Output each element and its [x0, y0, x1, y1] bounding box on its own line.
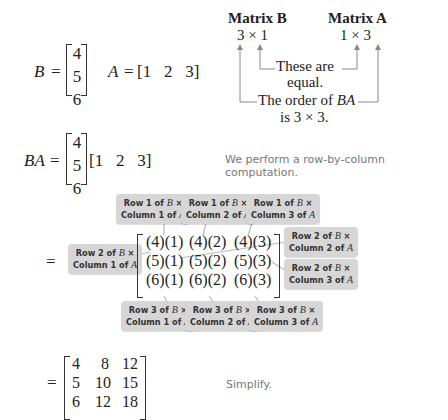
callout-text: Column 1 of — [126, 317, 184, 327]
result-cell: 18 — [122, 393, 138, 411]
result-cell: 6 — [72, 393, 80, 411]
callout-var: A — [347, 274, 353, 285]
callout-times: × — [306, 305, 316, 315]
callout-row1-col3: Row 1 of B × Column 3 of A — [246, 194, 320, 224]
matrix-cell: (4)(3) — [234, 233, 271, 251]
callout-times: × — [341, 231, 351, 241]
callout-text: Row 2 of — [292, 231, 335, 241]
callout-text: Column 3 of — [251, 210, 309, 220]
callout-text: Row 1 of — [189, 198, 232, 208]
result-cell: 15 — [122, 374, 138, 392]
result-cell: 10 — [95, 374, 111, 392]
callout-text: Row 2 of — [292, 263, 335, 273]
result-equals: = — [47, 373, 57, 393]
result-cell: 12 — [95, 393, 111, 411]
callout-text: Row 2 of — [76, 248, 119, 258]
callout-text: Row 3 of — [129, 305, 172, 315]
matrix-cell: (6)(1) — [146, 271, 183, 289]
callout-times: × — [303, 198, 313, 208]
callout-text: Column 2 of — [289, 243, 347, 253]
callout-times: × — [125, 248, 135, 258]
callout-var: A — [309, 209, 315, 220]
callout-row2-col3: Row 2 of B × Column 3 of A — [284, 259, 358, 289]
matrix-cell: (4)(2) — [189, 233, 226, 251]
callout-text: Column 3 of — [254, 317, 312, 327]
callout-text: Row 1 of — [254, 198, 297, 208]
result-cell: 5 — [72, 374, 80, 392]
result-right-bracket — [140, 356, 146, 420]
result-cell: 12 — [122, 355, 138, 373]
callout-row2-col1: Row 2 of B × Column 1 of A — [68, 244, 142, 274]
callout-text: Row 1 of — [124, 198, 167, 208]
callout-row1-col2: Row 1 of B × Column 2 of A — [181, 194, 255, 224]
callout-var: A — [347, 242, 353, 253]
callout-text: Row 3 of — [257, 305, 300, 315]
result-cell: 4 — [72, 355, 80, 373]
callout-text: Column 3 of — [289, 275, 347, 285]
computation-equals: = — [46, 252, 56, 272]
callout-text: Column 1 of — [121, 210, 179, 220]
callout-row3-col3: Row 3 of B × Column 3 of A — [249, 301, 323, 331]
callout-text: Column 1 of — [73, 260, 131, 270]
matrix-cell: (6)(3) — [234, 271, 271, 289]
result-cell: 8 — [101, 355, 109, 373]
matrix-cell: (6)(2) — [189, 271, 226, 289]
matrix-cell: (4)(1) — [146, 233, 183, 251]
callout-text: Column 2 of — [190, 317, 248, 327]
callout-row1-col1: Row 1 of B × Column 1 of A — [116, 194, 190, 224]
result-left-bracket — [64, 356, 70, 420]
matrix-cell: (5)(2) — [189, 252, 226, 270]
simplify-note: Simplify. — [226, 378, 272, 391]
computation-right-bracket — [274, 234, 280, 298]
matrix-cell: (5)(3) — [234, 252, 271, 270]
callout-text: Column 2 of — [186, 210, 244, 220]
callout-var: A — [312, 316, 318, 327]
callout-text: Row 3 of — [193, 305, 236, 315]
matrix-cell: (5)(1) — [146, 252, 183, 270]
callout-row2-col2: Row 2 of B × Column 2 of A — [284, 227, 358, 257]
computation-left-bracket — [137, 234, 143, 298]
callout-times: × — [341, 263, 351, 273]
